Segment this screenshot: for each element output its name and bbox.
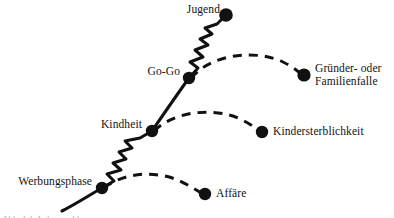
branch-curve-affaere (104, 174, 203, 194)
branch-curve-gruenderfalle (191, 55, 302, 78)
node-dot-jugend[interactable] (219, 8, 233, 22)
node-dot-gruenderfalle[interactable] (297, 68, 310, 81)
node-label-affaere: Affäre (216, 187, 276, 200)
node-dot-kindersterblichkeit[interactable] (256, 126, 268, 138)
main-curve-tail (62, 188, 102, 211)
node-dot-kindheit[interactable] (146, 125, 158, 137)
main-curve-mid (152, 78, 189, 131)
node-dot-gogo[interactable] (183, 72, 195, 84)
node-label-gogo: Go-Go (128, 65, 180, 78)
node-label-jugend: Jugend (168, 3, 220, 16)
node-dot-affaere[interactable] (199, 188, 211, 200)
diagram-canvas: Jugend Go-Go Kindheit Werbungsphase Affä… (0, 0, 394, 218)
node-label-kindersterblichkeit: Kindersterblichkeit (273, 125, 393, 138)
node-dot-werbungsphase[interactable] (96, 182, 108, 194)
node-label-gruenderfalle-line1: Gründer- oder (315, 62, 382, 74)
node-label-gruenderfalle-line2: Familienfalle (315, 75, 378, 87)
caption-sliver: Abb. 1.1 Lebenszyklus (2, 214, 87, 218)
node-label-werbungsphase: Werbungsphase (4, 175, 92, 188)
main-curve-zigzag-lower (102, 131, 152, 188)
node-label-gruenderfalle: Gründer- oderFamilienfalle (315, 62, 394, 87)
main-curve-zigzag-upper (189, 15, 226, 78)
node-label-kindheit: Kindheit (86, 118, 142, 131)
branch-curve-kindersterblichkeit (154, 112, 260, 131)
